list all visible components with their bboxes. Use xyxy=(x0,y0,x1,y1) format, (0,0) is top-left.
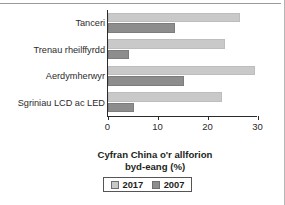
x-tick xyxy=(158,116,159,120)
x-tick-label: 30 xyxy=(245,121,271,132)
x-tick-label: 20 xyxy=(195,121,221,132)
category-bars xyxy=(108,64,258,88)
bar-2007 xyxy=(108,103,134,113)
top-divider-rule xyxy=(0,3,281,4)
bar-2017 xyxy=(108,66,256,76)
x-tick xyxy=(208,116,209,120)
chart-category-row: Sgriniau LCD ac LED xyxy=(0,90,285,117)
plot-area: TanceriTrenau rheilffyrddAerdymherwyrSgr… xyxy=(0,10,285,116)
bar-2017 xyxy=(108,92,222,102)
y-axis-line xyxy=(107,10,108,116)
legend-label-2017: 2017 xyxy=(123,180,144,190)
category-label: Trenau rheilffyrdd xyxy=(0,45,105,55)
chart-category-row: Trenau rheilffyrdd xyxy=(0,37,285,64)
x-axis-title: Cyfran China o'r allforion byd-eang (%) xyxy=(60,149,250,173)
x-tick xyxy=(108,116,109,120)
legend-swatch-2017-icon xyxy=(111,181,119,189)
bar-2017 xyxy=(108,13,241,23)
category-bars xyxy=(108,11,258,35)
category-bars xyxy=(108,38,258,62)
bar-2007 xyxy=(108,50,129,60)
bar-chart: TanceriTrenau rheilffyrddAerdymherwyrSgr… xyxy=(0,10,285,138)
bar-2017 xyxy=(108,39,226,49)
legend-label-2007: 2007 xyxy=(164,180,185,190)
chart-legend: 2017 2007 xyxy=(103,177,192,192)
x-axis-title-line-1: Cyfran China o'r allforion xyxy=(60,149,250,161)
category-bars xyxy=(108,91,258,115)
chart-category-row: Tanceri xyxy=(0,10,285,37)
chart-category-row: Aerdymherwyr xyxy=(0,63,285,90)
x-axis-line xyxy=(107,116,257,117)
legend-swatch-2007-icon xyxy=(152,181,160,189)
legend-item-2017: 2017 xyxy=(111,180,143,190)
category-label: Sgriniau LCD ac LED xyxy=(0,98,105,108)
x-axis-title-line-2: byd-eang (%) xyxy=(60,161,250,173)
legend-item-2007: 2007 xyxy=(152,180,184,190)
x-tick-label: 0 xyxy=(95,121,121,132)
category-label: Aerdymherwyr xyxy=(0,71,105,81)
bar-2007 xyxy=(108,76,184,86)
x-tick xyxy=(258,116,259,120)
chart-page: TanceriTrenau rheilffyrddAerdymherwyrSgr… xyxy=(0,0,285,205)
x-tick-label: 10 xyxy=(145,121,171,132)
category-label: Tanceri xyxy=(0,18,105,28)
bar-2007 xyxy=(108,23,176,33)
